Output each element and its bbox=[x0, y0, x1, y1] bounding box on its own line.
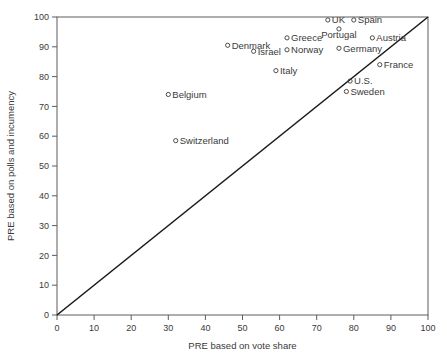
y-axis-tick-labels: 0102030405060708090100 bbox=[34, 12, 49, 320]
identity-reference-line bbox=[57, 17, 428, 315]
scatter-plot-figure: 0102030405060708090100 01020304050607080… bbox=[0, 0, 447, 355]
data-point-marker bbox=[226, 43, 230, 47]
y-axis-title: PRE based on polls and incumency bbox=[5, 91, 16, 241]
data-point-label: UK bbox=[332, 14, 346, 25]
y-tick-label: 40 bbox=[39, 191, 49, 201]
data-point-marker bbox=[378, 63, 382, 67]
data-point-label: Spain bbox=[358, 14, 382, 25]
y-tick-label: 10 bbox=[39, 280, 49, 290]
y-tick-label: 20 bbox=[39, 251, 49, 261]
data-point-label: France bbox=[384, 59, 414, 70]
x-tick-label: 70 bbox=[312, 323, 322, 333]
y-tick-label: 50 bbox=[39, 161, 49, 171]
data-point-label: U.S. bbox=[354, 75, 372, 86]
data-point-marker bbox=[285, 36, 289, 40]
data-point-label: Belgium bbox=[172, 89, 206, 100]
y-axis-ticks bbox=[52, 17, 57, 315]
data-point-marker bbox=[337, 46, 341, 50]
y-tick-label: 100 bbox=[34, 12, 49, 22]
data-point-label: Switzerland bbox=[180, 135, 229, 146]
plot-canvas: 0102030405060708090100 01020304050607080… bbox=[0, 0, 447, 355]
reference-line-group bbox=[57, 17, 428, 315]
x-tick-label: 90 bbox=[386, 323, 396, 333]
data-point-marker bbox=[285, 48, 289, 52]
x-tick-label: 30 bbox=[163, 323, 173, 333]
data-point-marker bbox=[326, 18, 330, 22]
data-point-marker bbox=[344, 89, 348, 93]
data-point-marker bbox=[352, 18, 356, 22]
y-tick-label: 30 bbox=[39, 221, 49, 231]
x-tick-label: 100 bbox=[420, 323, 435, 333]
data-point-label: Israel bbox=[258, 46, 281, 57]
y-tick-label: 90 bbox=[39, 42, 49, 52]
data-point-label: Greece bbox=[291, 32, 322, 43]
data-point-label: Austria bbox=[376, 32, 406, 43]
x-tick-label: 20 bbox=[126, 323, 136, 333]
data-point-marker bbox=[370, 36, 374, 40]
data-point-label: Portugal bbox=[321, 29, 356, 40]
x-tick-label: 80 bbox=[349, 323, 359, 333]
data-point-label: Italy bbox=[280, 65, 298, 76]
data-point-marker bbox=[274, 69, 278, 73]
data-point-marker bbox=[174, 139, 178, 143]
data-point-label: Germany bbox=[343, 43, 382, 54]
data-point-group: UKSpainPortugalGreeceAustriaDenmarkGerma… bbox=[166, 14, 413, 146]
x-tick-label: 0 bbox=[54, 323, 59, 333]
data-point-label: Sweden bbox=[350, 86, 384, 97]
x-tick-label: 40 bbox=[200, 323, 210, 333]
x-tick-label: 10 bbox=[89, 323, 99, 333]
x-axis-title: PRE based on vote share bbox=[188, 340, 296, 351]
y-tick-label: 80 bbox=[39, 72, 49, 82]
data-point-label: Norway bbox=[291, 44, 323, 55]
y-tick-label: 70 bbox=[39, 102, 49, 112]
data-point-marker bbox=[166, 92, 170, 96]
y-tick-label: 60 bbox=[39, 131, 49, 141]
y-tick-label: 0 bbox=[44, 310, 49, 320]
x-tick-label: 60 bbox=[275, 323, 285, 333]
x-axis-tick-labels: 0102030405060708090100 bbox=[54, 323, 435, 333]
x-axis-ticks bbox=[57, 315, 428, 320]
x-tick-label: 50 bbox=[237, 323, 247, 333]
